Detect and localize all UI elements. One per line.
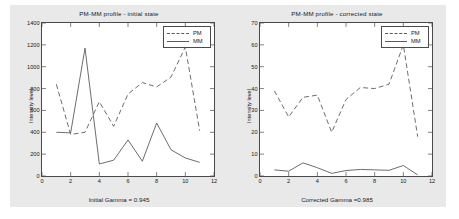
y-tick-label: 400 — [30, 129, 39, 135]
x-tick-label: 10 — [182, 178, 188, 184]
legend-label-mm: MM — [193, 37, 203, 45]
legend-label-pm: PM — [411, 29, 420, 37]
legend-swatch-pm-dashed-icon — [385, 33, 407, 34]
legend-initial[interactable]: PM MM — [163, 26, 211, 48]
x-tick-label: 0 — [258, 178, 261, 184]
series-mm — [56, 48, 199, 164]
legend-entry-mm: MM — [385, 37, 425, 45]
x-axis-caption-corrected: Corrected Gamma =0.985 — [228, 196, 446, 203]
x-tick-label: 6 — [344, 178, 347, 184]
y-tick-label: 30 — [251, 107, 257, 113]
x-tick-label: 4 — [316, 178, 319, 184]
figure-canvas: PM-MM profile - initial state Intensity … — [10, 5, 446, 207]
y-tick-label: 50 — [251, 64, 257, 70]
y-axis-label-initial: Intensity level — [28, 89, 34, 123]
x-tick-label: 2 — [69, 178, 72, 184]
legend-swatch-mm-solid-icon — [385, 41, 407, 42]
legend-entry-mm: MM — [167, 37, 207, 45]
x-tick-label: 12 — [429, 178, 435, 184]
x-tick-label: 0 — [40, 178, 43, 184]
x-tick-label: 8 — [155, 178, 158, 184]
y-tick-label: 70 — [251, 20, 257, 26]
legend-entry-pm: PM — [385, 29, 425, 37]
y-tick-label: 60 — [251, 42, 257, 48]
x-tick-label: 8 — [373, 178, 376, 184]
legend-swatch-pm-dashed-icon — [167, 33, 189, 34]
legend-corrected[interactable]: PM MM — [381, 26, 429, 48]
x-tick-label: 4 — [98, 178, 101, 184]
y-tick-label: 1200 — [27, 42, 39, 48]
chart-panel-corrected: PM-MM profile - corrected state Intensit… — [228, 5, 446, 207]
x-tick-label: 12 — [211, 178, 217, 184]
y-tick-label: 0 — [254, 173, 257, 179]
chart-title-corrected: PM-MM profile - corrected state — [228, 10, 446, 17]
series-pm — [274, 45, 417, 137]
y-tick-label: 800 — [30, 86, 39, 92]
y-tick-label: 0 — [36, 173, 39, 179]
plot-area-corrected: PM MM 010203040506070 024681012 — [259, 22, 433, 177]
x-tick-label: 2 — [287, 178, 290, 184]
legend-label-mm: MM — [411, 37, 421, 45]
x-tick-label: 6 — [126, 178, 129, 184]
y-tick-label: 1400 — [27, 20, 39, 26]
y-axis-label-corrected: Intensity level — [246, 89, 252, 123]
y-tick-label: 1000 — [27, 64, 39, 70]
chart-panel-initial: PM-MM profile - initial state Intensity … — [10, 5, 228, 207]
y-tick-label: 10 — [251, 151, 257, 157]
x-tick-label: 10 — [400, 178, 406, 184]
y-tick-label: 40 — [251, 86, 257, 92]
legend-label-pm: PM — [193, 29, 202, 37]
y-tick-label: 20 — [251, 129, 257, 135]
plot-area-initial: PM MM 0200400600800100012001400 02468101… — [41, 22, 215, 177]
y-tick-label: 600 — [30, 107, 39, 113]
y-tick-label: 200 — [30, 151, 39, 157]
x-axis-caption-initial: Initial Gamma = 0.945 — [10, 196, 228, 203]
legend-entry-pm: PM — [167, 29, 207, 37]
legend-swatch-mm-solid-icon — [167, 41, 189, 42]
chart-title-initial: PM-MM profile - initial state — [10, 10, 228, 17]
